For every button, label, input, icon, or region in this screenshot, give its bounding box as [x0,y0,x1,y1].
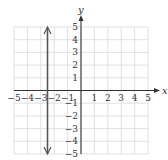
x-tick-label: 5 [145,93,151,103]
y-tick-label: 3 [72,47,78,57]
coordinate-plane: −5−4−3−2−112345−5−4−3−2−112345 x y [0,0,168,160]
y-tick-label: 2 [72,60,78,70]
y-tick-label: 5 [72,22,78,32]
x-tick-label: 4 [132,93,138,103]
x-tick-label: −4 [21,93,35,103]
x-tick-label: −5 [7,93,21,103]
y-axis-label: y [77,4,84,15]
x-tick-label: 2 [105,93,111,103]
x-tick-label: −3 [34,93,48,103]
x-tick-label: 3 [118,93,124,103]
x-axis-arrow-icon [154,88,160,93]
y-tick-label: −1 [65,98,78,108]
axes [14,15,160,154]
y-axis-arrow-icon [79,15,84,21]
y-tick-label: 4 [72,35,78,45]
y-tick-label: −4 [65,136,79,146]
y-tick-label: −3 [65,124,79,134]
y-tick-label: 1 [72,73,78,83]
x-axis-label: x [162,85,168,96]
x-tick-label: 1 [92,93,98,103]
y-tick-label: −5 [65,149,79,159]
y-tick-label: −2 [65,111,78,121]
x-tick-label: −2 [48,93,61,103]
